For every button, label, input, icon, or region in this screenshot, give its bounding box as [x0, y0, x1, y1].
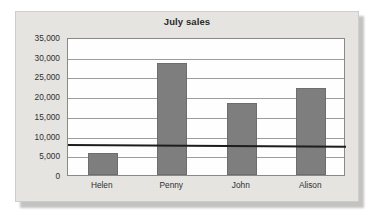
y-axis-tick-label: 15,000	[35, 112, 60, 122]
x-axis: HelenPennyJohnAlison	[67, 180, 345, 196]
chart-title: July sales	[15, 16, 359, 27]
x-axis-tick-label: John	[232, 180, 250, 190]
y-axis-tick-label: 25,000	[35, 72, 60, 82]
x-axis-tick-label: Helen	[91, 180, 113, 190]
y-axis-tick-label: 10,000	[35, 132, 60, 142]
gridline	[68, 78, 344, 79]
bar	[296, 88, 326, 175]
bar	[157, 63, 187, 175]
y-axis-tick-label: 35,000	[35, 33, 60, 43]
y-axis-tick-label: 30,000	[35, 53, 60, 63]
y-axis-tick-label: 20,000	[35, 92, 60, 102]
plot-area	[67, 38, 345, 176]
gridline	[68, 59, 344, 60]
figure-container: July sales 05,00010,00015,00020,00025,00…	[0, 0, 382, 219]
bar	[88, 153, 118, 175]
threshold-line	[68, 144, 346, 148]
y-axis: 05,00010,00015,00020,00025,00030,00035,0…	[10, 38, 63, 176]
x-axis-tick-label: Penny	[159, 180, 183, 190]
y-axis-tick-label: 0	[55, 171, 60, 181]
bar	[227, 103, 257, 175]
x-axis-tick-label: Alison	[299, 180, 322, 190]
y-axis-tick-label: 5,000	[39, 151, 60, 161]
